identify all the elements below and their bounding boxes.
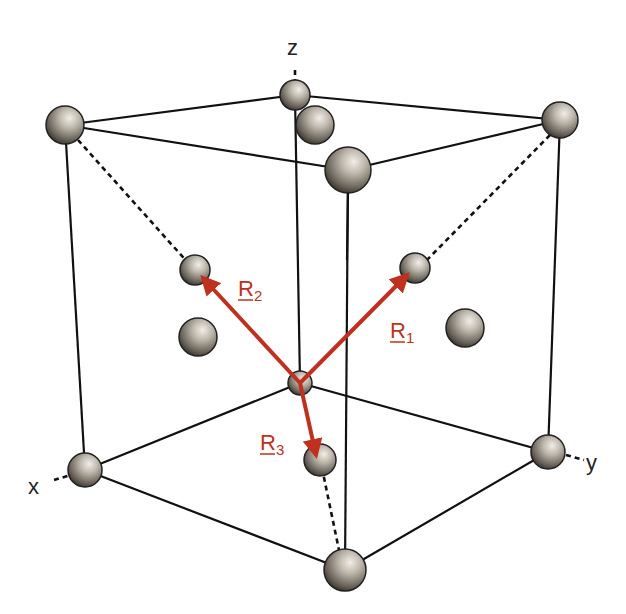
vector-R2-subscript: 2	[254, 287, 262, 304]
edge-back-x	[85, 383, 300, 470]
cube-edges	[65, 95, 560, 570]
z-axis-label: z	[287, 35, 298, 60]
edge-z-back	[295, 95, 300, 383]
atom-corner-top-front	[325, 147, 371, 193]
atom-top-face-center	[296, 106, 334, 144]
atom-corner-x	[68, 453, 102, 487]
atom-corner-top-back	[280, 80, 310, 110]
edge-left-vertical	[65, 125, 85, 470]
vector-R1-subscript: 1	[406, 329, 414, 346]
dash-to-R2-atom	[78, 140, 190, 265]
edge-top-back-right	[295, 95, 560, 120]
edge-front-vertical-overlay	[347, 193, 348, 260]
x-axis-label: x	[28, 474, 39, 499]
atoms	[46, 80, 578, 591]
vector-label-R3: R3	[260, 430, 284, 458]
vector-R3-arrow	[300, 383, 316, 455]
atom-corner-y	[531, 435, 565, 469]
atom-corner-bottom-front	[324, 549, 366, 591]
edge-bottom-left	[85, 470, 345, 570]
back-edges	[85, 95, 548, 470]
atom-face-center-left	[179, 318, 217, 356]
vector-R2-letter: R	[238, 276, 254, 301]
vector-label-R2: R2	[238, 276, 262, 304]
atom-face-center-R3	[304, 444, 336, 476]
vector-label-R1: R1	[390, 318, 414, 346]
atom-corner-top-left	[46, 106, 84, 144]
fcc-lattice-diagram: z x y R1 R2 R3	[0, 0, 626, 614]
primitive-vectors	[203, 275, 407, 455]
dash-to-R1-atom	[425, 135, 550, 262]
y-axis-dash	[566, 455, 584, 460]
edge-top-front-right	[348, 120, 560, 170]
edge-right-vertical	[548, 120, 560, 452]
atom-corner-top-right	[542, 102, 578, 138]
dash-to-R3-atom	[322, 468, 340, 555]
y-axis-label: y	[586, 450, 597, 475]
vector-R1-letter: R	[390, 318, 406, 343]
vector-R3-letter: R	[260, 430, 276, 455]
edge-back-y	[300, 383, 548, 452]
atom-face-center-right	[446, 309, 484, 347]
edge-top-left-back	[65, 95, 295, 125]
edge-bottom-right	[345, 452, 548, 570]
vector-R3-subscript: 3	[276, 441, 284, 458]
